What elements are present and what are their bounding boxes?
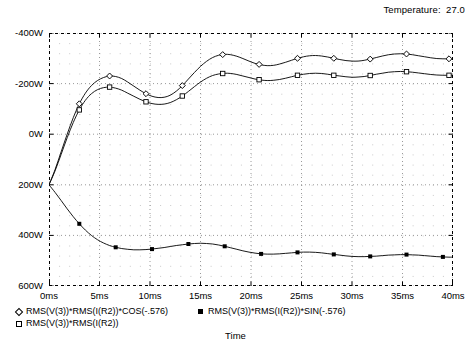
axis-ticks	[49, 33, 453, 286]
x-axis-title: Time	[0, 330, 471, 341]
diamond-open-marker	[143, 91, 149, 97]
legend-item: RMS(V(3))*RMS(I(R2))	[14, 318, 119, 328]
square-open-marker	[221, 71, 225, 75]
square-filled-marker	[405, 253, 409, 257]
legend-label: RMS(V(3))*RMS(I(R2))*SIN(-.576)	[208, 306, 346, 316]
y-tick-label: 200W	[0, 179, 43, 190]
square-open-marker	[368, 73, 372, 77]
square-open-marker	[77, 108, 81, 112]
diamond-open-marker	[220, 52, 226, 58]
square-filled-marker	[114, 245, 118, 249]
square-filled-marker	[223, 244, 227, 248]
square-open-marker	[180, 94, 184, 98]
square-open-marker	[144, 100, 148, 104]
x-tick-label: 0ms	[29, 290, 69, 301]
legend-label: RMS(V(3))*RMS(I(R2))	[26, 318, 119, 328]
axis-frame	[49, 33, 453, 286]
x-tick-label: 20ms	[231, 290, 271, 301]
y-tick-label: -400W	[0, 27, 43, 38]
x-tick-label: 15ms	[181, 290, 221, 301]
x-tick-label: 5ms	[80, 290, 120, 301]
square-filled-marker	[296, 250, 300, 254]
legend-item: RMS(V(3))*RMS(I(R2))*SIN(-.576)	[196, 306, 346, 316]
square-filled-marker	[259, 252, 263, 256]
diamond-open-marker	[256, 61, 262, 67]
diamond-open-marker	[295, 55, 301, 61]
square-filled-marker	[441, 255, 445, 259]
x-tick-label: 35ms	[383, 290, 423, 301]
y-tick-label: 0W	[0, 128, 43, 139]
legend-label: RMS(V(3))*RMS(I(R2))*COS(-.576)	[26, 306, 168, 316]
square-filled-marker	[186, 242, 190, 246]
x-tick-label: 30ms	[332, 290, 372, 301]
temperature-label: Temperature: 27.0	[383, 4, 465, 15]
square-open-marker	[332, 73, 336, 77]
square-filled-marker	[196, 307, 205, 316]
square-open-marker	[404, 70, 408, 74]
x-tick-label: 40ms	[433, 290, 471, 301]
square-filled-marker	[77, 222, 81, 226]
square-open-marker	[447, 73, 451, 77]
square-filled-marker	[368, 254, 372, 258]
square-filled-marker	[332, 252, 336, 256]
plot-svg	[49, 33, 453, 286]
square-open-marker	[257, 78, 261, 82]
diamond-open-marker	[331, 55, 337, 61]
diamond-open-marker	[14, 307, 23, 316]
diamond-open-marker	[107, 73, 113, 79]
square-open-marker	[14, 319, 23, 328]
major-gridlines	[49, 33, 453, 286]
square-open-marker	[107, 85, 111, 89]
plot-area	[49, 33, 453, 286]
square-filled-marker	[150, 247, 154, 251]
diamond-open-marker	[367, 56, 373, 62]
y-tick-label: -200W	[0, 78, 43, 89]
legend-item: RMS(V(3))*RMS(I(R2))*COS(-.576)	[14, 306, 168, 316]
diamond-open-marker	[446, 56, 452, 62]
series-1	[49, 70, 453, 185]
x-tick-label: 25ms	[282, 290, 322, 301]
y-tick-label: 400W	[0, 229, 43, 240]
square-open-marker	[295, 73, 299, 77]
x-tick-label: 10ms	[130, 290, 170, 301]
diamond-open-marker	[404, 51, 410, 57]
